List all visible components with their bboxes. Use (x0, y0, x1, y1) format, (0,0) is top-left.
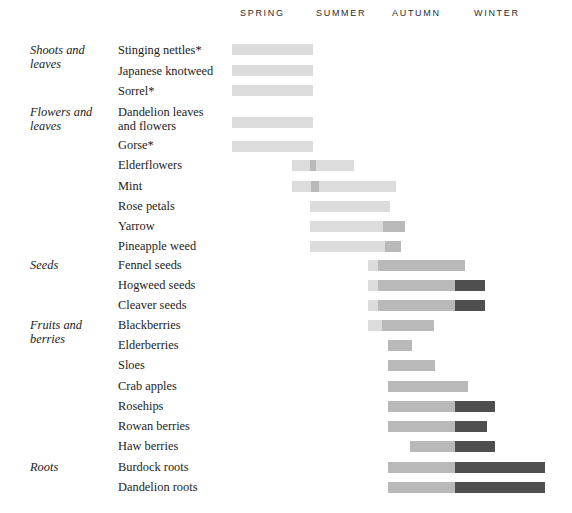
bar-segment (368, 300, 378, 311)
season-tick-spring: SPRING (240, 8, 285, 18)
bar-track (0, 280, 572, 292)
bar-segment (388, 401, 455, 412)
bar-track (0, 482, 572, 494)
season-tick-autumn: AUTUMN (392, 8, 441, 18)
bar-track (0, 85, 572, 97)
bar-segment (232, 44, 313, 55)
bar-segment (388, 421, 455, 432)
season-axis-header: SPRINGSUMMERAUTUMNWINTER (0, 8, 572, 24)
bar-track (0, 181, 572, 193)
season-tick-summer: SUMMER (316, 8, 366, 18)
bar-track (0, 441, 572, 453)
bar-segment (455, 482, 545, 493)
bar-track (0, 141, 572, 153)
bar-segment (385, 241, 401, 252)
bar-segment (378, 300, 455, 311)
bar-track (0, 340, 572, 352)
bar-track (0, 360, 572, 372)
bar-segment (455, 441, 495, 452)
bar-segment (388, 482, 455, 493)
bar-segment (232, 141, 313, 152)
bar-track (0, 44, 572, 56)
bar-track (0, 201, 572, 213)
bar-segment (378, 260, 465, 271)
season-tick-winter: WINTER (474, 8, 520, 18)
bar-track (0, 241, 572, 253)
bar-segment (232, 85, 313, 96)
bar-track (0, 300, 572, 312)
bar-segment (368, 260, 378, 271)
bar-segment (410, 441, 455, 452)
bar-track (0, 117, 572, 129)
bar-segment (368, 320, 382, 331)
bar-segment (292, 181, 311, 192)
bar-segment (311, 181, 319, 192)
bar-segment (388, 462, 455, 473)
bar-segment (316, 160, 354, 171)
bar-track (0, 160, 572, 172)
bar-segment (232, 117, 313, 128)
bar-segment (455, 300, 485, 311)
bar-segment (455, 421, 487, 432)
bar-track (0, 421, 572, 433)
bar-segment (382, 320, 434, 331)
seasonal-foraging-chart: SPRINGSUMMERAUTUMNWINTER Shoots andleave… (0, 0, 572, 513)
bar-track (0, 401, 572, 413)
bar-segment (455, 280, 485, 291)
bar-segment (292, 160, 310, 171)
bar-segment (319, 181, 396, 192)
bar-segment (232, 65, 313, 76)
bar-segment (388, 381, 468, 392)
bar-segment (388, 340, 412, 351)
bar-track (0, 65, 572, 77)
bar-segment (455, 401, 495, 412)
bar-segment (388, 360, 435, 371)
bar-track (0, 260, 572, 272)
bar-track (0, 320, 572, 332)
bar-segment (378, 280, 455, 291)
bar-segment (310, 221, 383, 232)
bar-segment (455, 462, 545, 473)
bar-segment (368, 280, 378, 291)
bar-segment (383, 221, 405, 232)
bar-segment (310, 241, 385, 252)
bar-track (0, 462, 572, 474)
bar-track (0, 221, 572, 233)
bar-segment (310, 201, 390, 212)
bar-track (0, 381, 572, 393)
